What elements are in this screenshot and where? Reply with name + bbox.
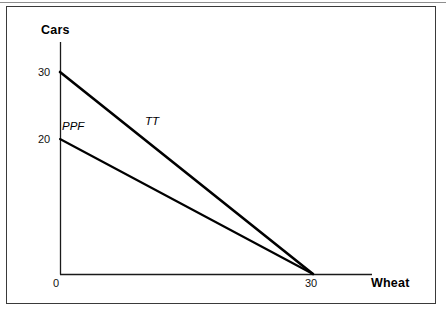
ppf-curve-label: PPF <box>62 120 84 132</box>
x-axis-title: Wheat <box>371 276 410 290</box>
tt-curve-line <box>60 72 313 274</box>
x-axis-tick-30: 30 <box>305 277 317 289</box>
y-axis-tick-20: 20 <box>38 133 50 145</box>
chart-plot-area <box>0 0 446 313</box>
y-axis-tick-30: 30 <box>38 66 50 78</box>
figure-container: Cars Wheat 30 20 0 30 PPF TT <box>0 0 446 313</box>
y-axis-title: Cars <box>41 23 70 37</box>
origin-tick-label: 0 <box>53 277 59 289</box>
tt-curve-label: TT <box>145 115 159 127</box>
ppf-curve-line <box>60 139 313 274</box>
